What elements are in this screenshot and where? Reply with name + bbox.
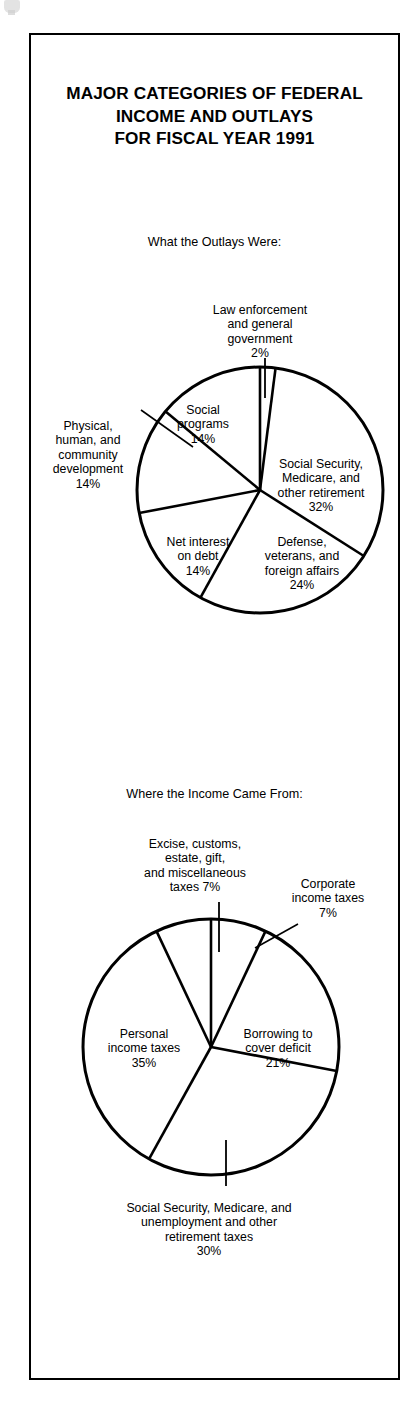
page-canvas: MAJOR CATEGORIES OF FEDERAL INCOME AND O…: [0, 0, 419, 1401]
income-label-borrowing-deficit-percent: 21%: [222, 1056, 334, 1071]
income-label-personal-taxes-percent: 35%: [92, 1056, 196, 1071]
income-label-corporate-taxes-percent: 7%: [262, 906, 394, 921]
income-label-corporate-taxes-text: Corporate income taxes: [292, 877, 364, 906]
income-label-excise-customs-text: Excise, customs, estate, gift, and misce…: [144, 837, 246, 895]
income-label-borrowing-deficit-text: Borrowing to cover deficit: [243, 1027, 312, 1056]
income-label-borrowing-deficit: Borrowing to cover deficit 21%: [222, 1012, 334, 1085]
income-label-corporate-taxes: Corporate income taxes 7%: [262, 862, 394, 935]
income-label-social-security-unemployment: Social Security, Medicare, and unemploym…: [44, 1186, 374, 1274]
income-label-personal-taxes: Personal income taxes 35%: [92, 1012, 196, 1085]
income-label-social-security-unemployment-percent: 30%: [44, 1244, 374, 1259]
income-label-social-security-unemployment-text: Social Security, Medicare, and unemploym…: [126, 1201, 291, 1244]
income-label-personal-taxes-text: Personal income taxes: [108, 1027, 180, 1056]
